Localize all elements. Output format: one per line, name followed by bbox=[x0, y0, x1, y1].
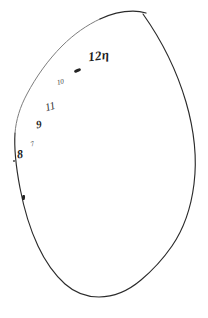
scanned-drawing-canvas: 12η 10 11 9 7 8 bbox=[0, 0, 208, 318]
annotation-label-10: 10 bbox=[56, 78, 64, 86]
tick-dot-left-icon bbox=[13, 160, 15, 162]
annotation-label-9: 9 bbox=[35, 119, 42, 131]
annotation-label-12n: 12η bbox=[87, 48, 110, 64]
